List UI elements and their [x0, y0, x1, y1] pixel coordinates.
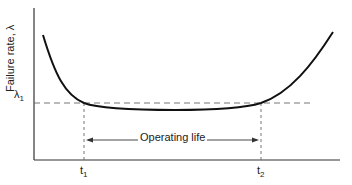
y-axis-label: Failure rate, λ	[4, 25, 16, 92]
t2-label: t2	[257, 164, 265, 179]
t2-subscript: 2	[260, 170, 264, 179]
lambda-subscript: 1	[20, 94, 24, 103]
t1-label: t1	[80, 164, 88, 179]
t1-subscript: 1	[83, 170, 87, 179]
arrow-right-icon	[252, 138, 259, 143]
lambda1-label: λ1	[14, 88, 24, 103]
arrow-left-icon	[86, 138, 93, 143]
failure-rate-curve	[43, 32, 333, 110]
bathtub-curve-plot	[0, 0, 352, 185]
operating-life-label: Operating life	[138, 131, 207, 143]
